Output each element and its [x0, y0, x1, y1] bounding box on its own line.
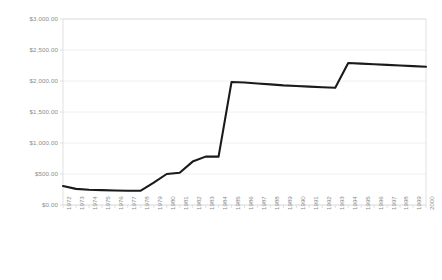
y-axis-tick-label: $2,000.00: [30, 77, 58, 84]
y-axis-tick-label: $0.00: [42, 201, 58, 208]
x-axis-tick-label: 1995: [364, 196, 371, 210]
x-axis-tick-label: 2000: [428, 196, 435, 210]
x-axis-tick-label: 1994: [351, 196, 358, 210]
x-axis-tick-label: 1993: [338, 196, 345, 210]
y-axis-tick-label: $3,000.00: [30, 15, 58, 22]
x-axis-tick-label: 1980: [169, 196, 176, 210]
x-axis-tick-label: 1981: [182, 196, 189, 210]
x-axis-tick-label: 1972: [65, 196, 72, 210]
x-axis-tick-label: 1998: [402, 196, 409, 210]
y-axis-tick-label: $1,000.00: [30, 139, 58, 146]
x-axis-tick-label: 1988: [273, 196, 280, 210]
x-axis-tick-label: 1999: [415, 196, 422, 210]
x-axis-tick-label: 1997: [390, 196, 397, 210]
y-axis-tick-label: $2,500.00: [30, 46, 58, 53]
chart-plot-area: [0, 0, 442, 280]
x-axis-tick-label: 1974: [91, 196, 98, 210]
y-axis-tick-label: $1,500.00: [30, 108, 58, 115]
x-axis-tick-label: 1973: [78, 196, 85, 210]
x-axis-tick-label: 1996: [377, 196, 384, 210]
x-axis-tick-label: 1978: [143, 196, 150, 210]
x-axis-tick-label: 1975: [104, 196, 111, 210]
x-axis-tick-label: 1977: [130, 196, 137, 210]
x-axis-tick-label: 1984: [221, 196, 228, 210]
line-chart: $0.00$500.00$1,000.00$1,500.00$2,000.00$…: [0, 0, 442, 280]
x-axis-tick-label: 1991: [312, 196, 319, 210]
series-line-1: [63, 63, 426, 191]
x-axis-tick-label: 1986: [247, 196, 254, 210]
x-axis-tick-label: 1989: [286, 196, 293, 210]
x-axis-tick-label: 1979: [156, 196, 163, 210]
x-axis-tick-label: 1976: [117, 196, 124, 210]
x-axis-tick-label: 1987: [260, 196, 267, 210]
x-axis-tick-label: 1985: [234, 196, 241, 210]
x-axis-tick-label: 1983: [208, 196, 215, 210]
x-axis-tick-label: 1982: [195, 196, 202, 210]
x-axis-tick-label: 1992: [325, 196, 332, 210]
x-axis-tick-label: 1990: [299, 196, 306, 210]
y-axis-tick-label: $500.00: [35, 170, 58, 177]
